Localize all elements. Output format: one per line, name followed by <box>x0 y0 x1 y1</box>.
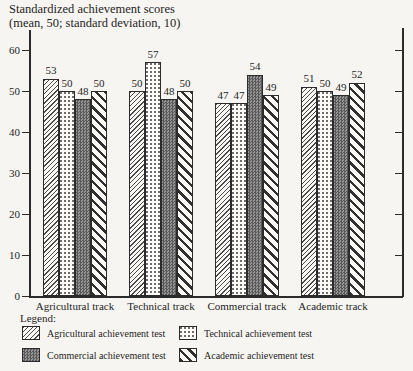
bar-comm-group2 <box>161 99 177 296</box>
x-axis-line <box>29 296 403 298</box>
y-axis-tick <box>22 50 29 51</box>
academic-pattern-swatch <box>179 348 197 362</box>
right-frame-tick <box>395 91 402 92</box>
y-axis-tick-label: 20 <box>0 208 20 220</box>
y-axis-line <box>29 30 31 297</box>
y-axis-tick <box>22 173 29 174</box>
bar-acad-group3 <box>263 95 279 296</box>
legend-item-label: Commercial achievement test <box>47 350 166 361</box>
legend-item-academic-test: Academic achievement test <box>179 348 314 362</box>
bar-tech-group4 <box>317 91 333 296</box>
bar-tech-group1 <box>59 91 75 296</box>
bar-value-label: 50 <box>170 77 200 89</box>
bar-acad-group2 <box>177 91 193 296</box>
legend: Legend: Agricultural achievement test Te… <box>0 312 413 371</box>
legend-item-label: Technical achievement test <box>204 328 312 339</box>
y-axis-tick <box>22 132 29 133</box>
y-axis-tick-label: 0 <box>0 290 20 302</box>
legend-item-technical-test: Technical achievement test <box>179 326 312 340</box>
right-frame-tick <box>395 173 402 174</box>
bar-value-label: 53 <box>36 64 66 76</box>
y-axis-tick-label: 60 <box>0 44 20 56</box>
right-frame-tick <box>395 214 402 215</box>
right-frame-tick <box>395 296 402 297</box>
agricultural-pattern-swatch <box>22 326 40 340</box>
legend-heading: Legend: <box>20 312 56 324</box>
right-frame-tick <box>395 255 402 256</box>
y-axis-tick-label: 50 <box>0 85 20 97</box>
bar-agri-group3 <box>215 103 231 296</box>
legend-item-label: Academic achievement test <box>204 350 314 361</box>
y-axis-tick <box>22 296 29 297</box>
bar-value-label: 57 <box>138 48 168 60</box>
legend-item-agricultural-test: Agricultural achievement test <box>22 326 165 340</box>
bar-comm-group3 <box>247 75 263 296</box>
bar-acad-group4 <box>349 83 365 296</box>
bar-agri-group4 <box>301 87 317 296</box>
bar-value-label: 54 <box>240 60 270 72</box>
y-axis-tick-label: 10 <box>0 249 20 261</box>
right-frame-tick <box>395 50 402 51</box>
bar-chart-plot-area: 010203040506053504850Agricultural track5… <box>0 0 413 312</box>
legend-item-label: Agricultural achievement test <box>47 328 165 339</box>
bar-agri-group1 <box>43 79 59 296</box>
y-axis-tick <box>22 91 29 92</box>
y-axis-tick <box>22 255 29 256</box>
bar-tech-group2 <box>145 62 161 296</box>
bar-tech-group3 <box>231 103 247 296</box>
y-axis-tick-label: 40 <box>0 126 20 138</box>
bar-comm-group4 <box>333 95 349 296</box>
bar-acad-group1 <box>91 91 107 296</box>
commercial-pattern-swatch <box>22 348 40 362</box>
y-axis-tick-label: 30 <box>0 167 20 179</box>
bar-agri-group2 <box>129 91 145 296</box>
x-category-label: Academic track <box>278 300 388 312</box>
bar-value-label: 52 <box>342 68 372 80</box>
technical-pattern-swatch <box>179 326 197 340</box>
legend-item-commercial-test: Commercial achievement test <box>22 348 166 362</box>
bar-value-label: 50 <box>84 77 114 89</box>
right-frame-line <box>402 28 404 297</box>
bar-value-label: 49 <box>256 81 286 93</box>
y-axis-tick <box>22 214 29 215</box>
bar-comm-group1 <box>75 99 91 296</box>
right-frame-tick <box>395 132 402 133</box>
